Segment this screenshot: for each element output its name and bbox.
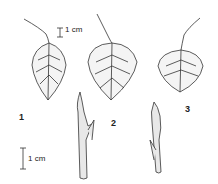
label-2: 2 xyxy=(111,118,116,128)
leaf-2 xyxy=(88,14,137,100)
leaf-3 xyxy=(158,18,203,92)
scale-bar-top xyxy=(57,28,63,37)
scale-label-top: 1 cm xyxy=(65,25,82,34)
label-1: 1 xyxy=(19,112,24,122)
twig-2 xyxy=(77,92,94,179)
scale-bar-bottom xyxy=(20,148,26,169)
scale-label-bottom: 1 cm xyxy=(28,154,45,163)
label-3: 3 xyxy=(185,104,190,114)
twig-3 xyxy=(150,102,161,173)
